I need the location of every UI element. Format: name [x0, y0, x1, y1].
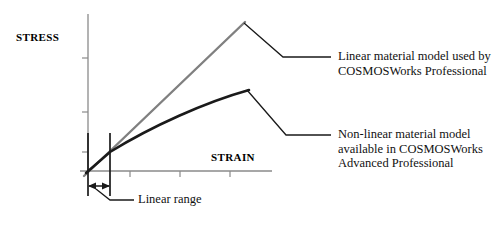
stress-strain-diagram: STRESS STRAIN Linear material model used…: [0, 0, 499, 229]
nonlinear-callout-leader-line: [247, 90, 331, 135]
diagram-canvas: [0, 0, 499, 229]
linear-range-dimension-arrow: [88, 183, 110, 190]
linear-range-label: Linear range: [138, 192, 202, 207]
linear-range-leader-line: [96, 189, 134, 200]
x-axis-label: STRAIN: [211, 151, 255, 163]
linear-model-callout-label: Linear material model used by COSMOSWork…: [338, 49, 491, 78]
y-axis-label: STRESS: [16, 31, 59, 43]
nonlinear-model-callout-label: Non-linear material model available in C…: [338, 127, 483, 171]
linear-callout-leader-line: [244, 23, 331, 57]
